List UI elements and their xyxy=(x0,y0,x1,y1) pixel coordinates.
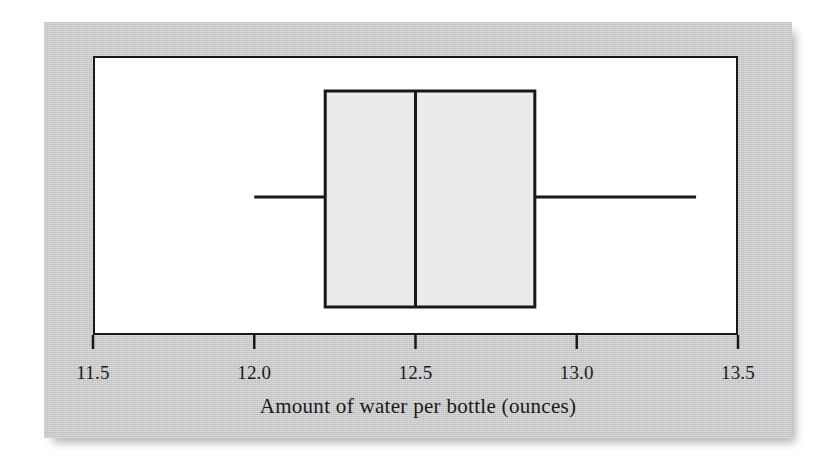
box-iqr xyxy=(325,91,535,307)
axis-tick-label: 13.0 xyxy=(542,362,612,384)
x-axis-title: Amount of water per bottle (ounces) xyxy=(44,394,792,419)
figure-panel: 11.5 12.0 12.5 13.0 13.5 Amount of water… xyxy=(44,22,792,438)
axis-tick-label: 12.5 xyxy=(381,362,451,384)
axis-tick-label: 11.5 xyxy=(58,362,128,384)
axis-tick-label: 12.0 xyxy=(219,362,289,384)
axis-tick-marks xyxy=(93,335,738,349)
axis-tick-label: 13.5 xyxy=(703,362,773,384)
